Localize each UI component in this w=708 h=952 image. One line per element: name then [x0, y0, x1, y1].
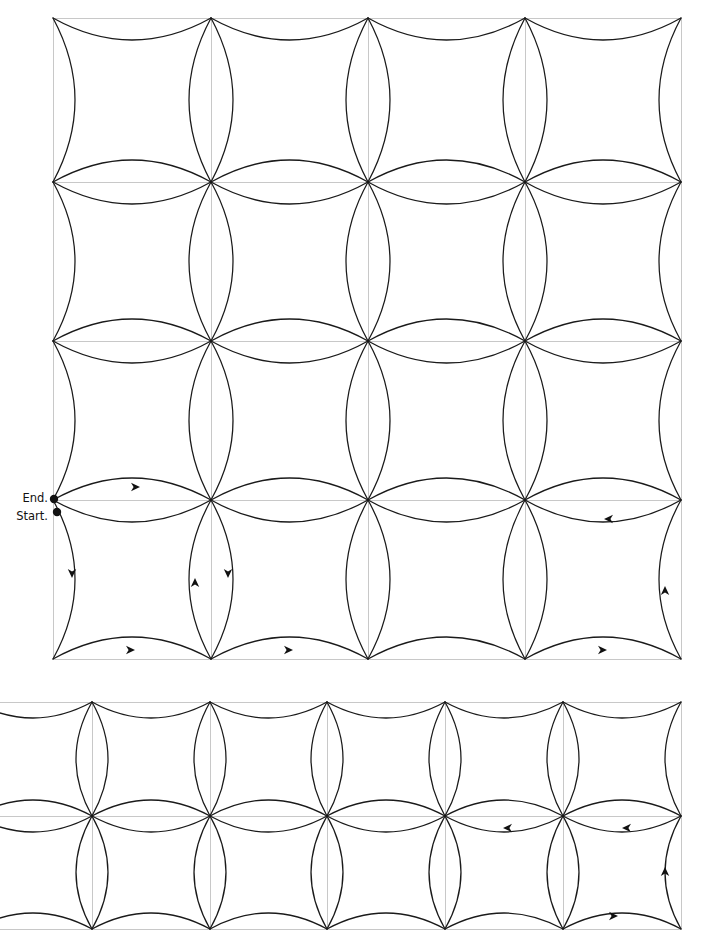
lattice-arc [189, 18, 211, 182]
lattice-arc [525, 500, 681, 522]
lattice-arc [563, 816, 681, 832]
lattice-arc [211, 341, 368, 363]
arrowhead-right [284, 646, 293, 654]
lattice-arc [53, 182, 211, 204]
lattice-arc [92, 913, 210, 929]
lattice-arc [327, 816, 343, 929]
lattice-arc [503, 18, 525, 182]
lattice-arc [53, 478, 211, 500]
lattice-arc [368, 18, 525, 40]
lattice-arc [311, 702, 327, 816]
lattice-arc [503, 500, 525, 659]
lattice-arc [211, 182, 368, 204]
lattice-arc [525, 18, 681, 40]
lattice-arc [525, 478, 681, 500]
lattice-arc [53, 319, 211, 341]
lattice-arc [659, 18, 681, 182]
arrowhead-right [126, 646, 135, 654]
lattice-arc [53, 18, 75, 182]
lattice-arc [189, 341, 211, 500]
lattice-arc [525, 637, 681, 659]
arrowhead-down [224, 569, 232, 578]
lattice-arc [76, 702, 92, 816]
lattice-arc [368, 182, 390, 341]
lattice-arc [346, 182, 368, 341]
lattice-arc [659, 500, 681, 659]
arrowhead-left [503, 824, 512, 832]
lattice-arc [346, 341, 368, 500]
lattice-arc [368, 637, 525, 659]
lattice-arc [194, 816, 210, 929]
lattice-arc [547, 702, 563, 816]
lattice-arc [368, 160, 525, 182]
end-label: End. [22, 491, 48, 505]
lattice-arc [346, 500, 368, 659]
lattice-arc [210, 702, 226, 816]
lattice-arc [503, 341, 525, 500]
lattice-arc [525, 18, 547, 182]
lattice-arc [368, 500, 525, 522]
lattice-arc [445, 913, 563, 929]
lattice-arc [327, 913, 445, 929]
lattice-diagram: End. Start. [0, 0, 708, 952]
lattice-arc [211, 500, 368, 522]
lattice-arc [525, 182, 547, 341]
lattice-arc [92, 816, 210, 832]
lattice-arc [368, 500, 390, 659]
lattice-arc [211, 18, 233, 182]
lattice-arc [53, 18, 211, 40]
lattice-arc [311, 816, 327, 929]
lattice-arc [368, 478, 525, 500]
lattice-arc [525, 500, 547, 659]
lower-arcs [0, 702, 681, 929]
lattice-arc [92, 702, 210, 718]
lattice-arc [525, 319, 681, 341]
lattice-arc [0, 816, 92, 832]
lattice-arc [210, 800, 327, 816]
lattice-arc [211, 341, 233, 500]
lattice-arc [53, 341, 211, 363]
lattice-arc [327, 816, 445, 832]
lattice-arc [211, 18, 368, 40]
lattice-arc [211, 478, 368, 500]
lattice-arc [327, 702, 343, 816]
lattice-arc [445, 800, 563, 816]
lattice-arc [211, 500, 233, 659]
lattice-arc [0, 913, 92, 929]
lattice-arc [92, 702, 108, 816]
lattice-arc [211, 182, 233, 341]
lattice-arc [53, 500, 211, 522]
lattice-arc [445, 816, 563, 832]
lattice-arc [327, 702, 445, 718]
lattice-arc [210, 816, 226, 929]
lattice-arc [53, 341, 75, 500]
lattice-arc [563, 702, 579, 816]
lattice-arc [445, 702, 563, 718]
arrowhead-left [622, 824, 631, 832]
lattice-arc [665, 702, 681, 816]
figure-canvas: End. Start. [0, 0, 708, 952]
lattice-arc [210, 702, 327, 718]
lattice-arc [659, 182, 681, 341]
lattice-arc [210, 816, 327, 832]
lattice-arc [525, 341, 681, 363]
lattice-arc [346, 18, 368, 182]
lattice-arc [563, 702, 681, 718]
arrowhead-up [191, 578, 199, 587]
lattice-arc [368, 319, 525, 341]
lattice-arc [189, 500, 211, 659]
lattice-arc [92, 816, 108, 929]
lattice-arc [368, 341, 525, 363]
start-label: Start. [16, 509, 48, 523]
lattice-arc [563, 913, 681, 929]
lattice-arc [445, 816, 461, 929]
lattice-arc [525, 341, 547, 500]
lattice-arc [194, 702, 210, 816]
arrowhead-right [131, 483, 140, 491]
lattice-arc [429, 702, 445, 816]
lattice-arc [0, 800, 92, 816]
arrowhead-up [661, 586, 669, 595]
lattice-arc [525, 182, 681, 204]
lattice-arc [503, 182, 525, 341]
lattice-arc [211, 319, 368, 341]
